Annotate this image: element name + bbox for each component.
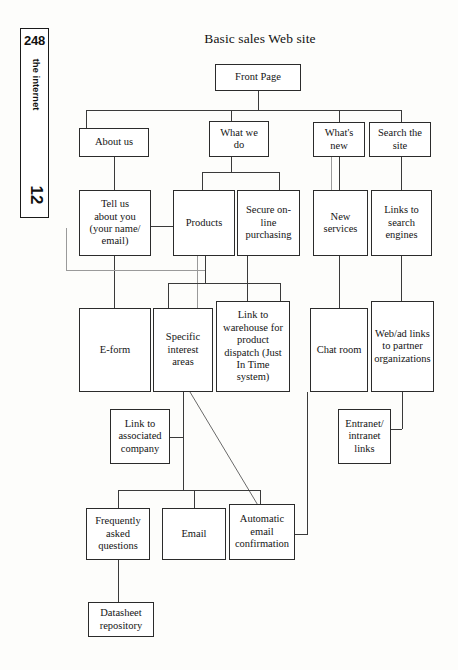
node-chat-room[interactable]: Chat room	[310, 308, 368, 392]
node-web-ad-links[interactable]: Web/ad links to partner organizations	[371, 301, 434, 392]
edge-bus-faq	[118, 490, 119, 508]
node-new-services[interactable]: New services	[313, 190, 368, 256]
edge-products-down	[205, 256, 206, 283]
edge-products-bus	[168, 283, 280, 284]
edge-bus-secure	[279, 172, 280, 190]
node-specific-interest-areas[interactable]: Specific interest areas	[153, 308, 213, 392]
edge-top-bus	[86, 110, 401, 111]
node-link-to-warehouse-label: Link to warehouse for product dispatch (…	[223, 309, 283, 383]
node-search-the-site-label: Search the site	[378, 127, 422, 152]
node-web-ad-links-label: Web/ad links to partner organizations	[374, 328, 430, 365]
edge-loopback-left-v	[66, 228, 67, 270]
edge-whatwedo-down	[231, 157, 232, 172]
node-entranet-intranet-links[interactable]: Entranet/ intranet links	[338, 409, 391, 464]
node-link-to-warehouse[interactable]: Link to warehouse for product dispatch (…	[216, 301, 290, 392]
edge-assoc-spine	[170, 437, 183, 438]
node-frequently-asked-questions[interactable]: Frequently asked questions	[86, 508, 150, 560]
margin-tab: 248 the internet 12	[20, 28, 49, 218]
node-front-page[interactable]: Front Page	[215, 64, 301, 91]
edge-bottom-bus	[118, 490, 260, 491]
edge-newservices-chatroom	[339, 256, 340, 308]
node-entranet-intranet-links-label: Entranet/ intranet links	[345, 418, 383, 455]
edge-searchsite-links	[401, 157, 402, 190]
node-products[interactable]: Products	[173, 190, 235, 256]
node-search-the-site[interactable]: Search the site	[369, 122, 431, 157]
node-specific-interest-areas-label: Specific interest areas	[166, 331, 200, 368]
edge-aboutus-tellus	[114, 157, 115, 190]
diagram-title: Basic sales Web site	[140, 31, 380, 47]
node-what-we-do-label: What we do	[220, 127, 258, 152]
edge-products-down-alt	[197, 256, 198, 314]
node-frequently-asked-questions-label: Frequently asked questions	[95, 515, 141, 552]
node-chat-room-label: Chat room	[317, 344, 362, 356]
node-links-to-search-engines-label: Links to search engines	[384, 204, 419, 241]
node-what-we-do[interactable]: What we do	[209, 121, 269, 157]
node-e-form-label: E-form	[100, 344, 130, 356]
node-tell-us-about-you-label: Tell us about you (your name/ email)	[89, 198, 140, 248]
edge-warehouse-spine-h	[294, 534, 308, 535]
node-link-to-associated-company-label: Link to associated company	[118, 418, 161, 455]
node-datasheet-repository-label: Datasheet repository	[100, 607, 143, 632]
node-whats-new-label: What's new	[325, 127, 354, 152]
node-new-services-label: New services	[324, 211, 358, 236]
node-link-to-associated-company[interactable]: Link to associated company	[110, 409, 170, 464]
node-front-page-label: Front Page	[235, 71, 281, 83]
node-whats-new[interactable]: What's new	[313, 122, 365, 157]
node-datasheet-repository[interactable]: Datasheet repository	[88, 602, 154, 637]
edge-webad-entranet-v	[402, 392, 403, 429]
edge-bus-email	[194, 490, 195, 508]
node-products-label: Products	[186, 217, 223, 229]
edge-whatsnew-newservices	[339, 157, 340, 190]
chapter-number: 12	[26, 163, 46, 228]
edge-frontpage-down	[258, 91, 259, 110]
edge-webad-entranet-h	[391, 429, 402, 430]
node-e-form[interactable]: E-form	[79, 308, 151, 392]
node-automatic-email-confirmation[interactable]: Automatic email confirmation	[229, 504, 295, 560]
edge-tellus-eform	[114, 256, 115, 308]
node-about-us-label: About us	[95, 136, 133, 148]
section-label: the internet	[31, 37, 42, 132]
edge-specific-spine	[183, 392, 184, 490]
node-secure-online-purchasing-label: Secure on- line purchasing	[245, 204, 291, 241]
node-automatic-email-confirmation-label: Automatic email confirmation	[235, 513, 289, 550]
edge-faq-datasheet	[118, 560, 119, 602]
node-links-to-search-engines[interactable]: Links to search engines	[371, 190, 432, 256]
edge-bus-specific	[168, 283, 169, 308]
node-about-us[interactable]: About us	[79, 128, 149, 157]
node-secure-online-purchasing[interactable]: Secure on- line purchasing	[237, 190, 300, 256]
edge-whatsnew-newservices-alt	[331, 157, 332, 190]
node-email[interactable]: Email	[162, 508, 226, 560]
book-page: 248 the internet 12 Basic sales Web site	[0, 0, 458, 670]
edge-warehouse-spine-v	[307, 392, 308, 534]
edge-bus-products	[202, 172, 203, 190]
edge-whatwedo-bus	[202, 172, 279, 173]
node-tell-us-about-you[interactable]: Tell us about you (your name/ email)	[79, 190, 151, 256]
edge-loopback-bottom-h	[66, 270, 205, 271]
node-email-label: Email	[181, 528, 206, 540]
edge-bus-aboutus	[86, 110, 87, 128]
